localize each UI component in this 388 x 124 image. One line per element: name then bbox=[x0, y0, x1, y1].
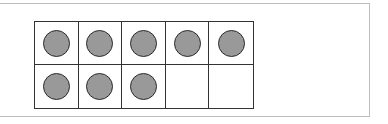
ten-frame-cell bbox=[79, 22, 123, 65]
counter-circle-icon bbox=[130, 30, 157, 57]
counter-circle-icon bbox=[43, 30, 70, 57]
ten-frame-cell bbox=[166, 22, 210, 65]
ten-frame-cell bbox=[122, 65, 166, 108]
counter-circle-icon bbox=[86, 73, 113, 100]
ten-frame-cell bbox=[209, 65, 253, 108]
ten-frame-grid bbox=[34, 21, 254, 109]
counter-circle-icon bbox=[174, 30, 201, 57]
ten-frame-cell bbox=[209, 22, 253, 65]
counter-circle-icon bbox=[218, 30, 245, 57]
ten-frame-cell bbox=[35, 22, 79, 65]
counter-circle-icon bbox=[43, 73, 70, 100]
ten-frame-cell bbox=[166, 65, 210, 108]
ten-frame-cell bbox=[35, 65, 79, 108]
ten-frame-cell bbox=[122, 22, 166, 65]
ten-frame-cell bbox=[79, 65, 123, 108]
counter-circle-icon bbox=[130, 73, 157, 100]
counter-circle-icon bbox=[86, 30, 113, 57]
